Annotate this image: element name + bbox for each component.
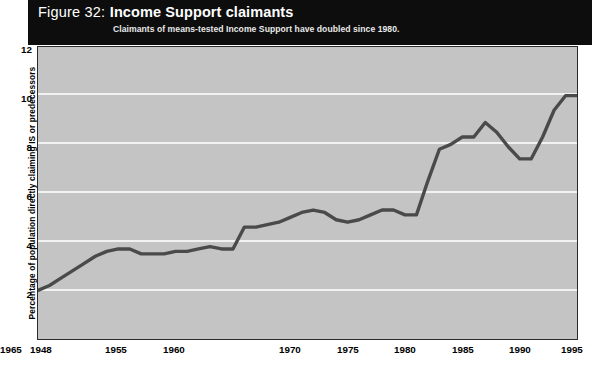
x-tick-1955: 1955 — [105, 344, 127, 355]
y-tick-6: 6 — [8, 192, 32, 202]
x-tick-1980: 1980 — [394, 344, 416, 355]
x-tick-1948: 1948 — [30, 344, 52, 355]
x-tick-1975: 1975 — [337, 344, 359, 355]
y-tick-8: 8 — [8, 143, 32, 153]
x-tick-1985: 1985 — [452, 344, 474, 355]
y-tick-2: 2 — [8, 290, 32, 300]
y-tick-10: 10 — [8, 94, 32, 104]
x-tick-1960: 1960 — [163, 344, 185, 355]
x-tick-1995: 1995 — [561, 344, 583, 355]
y-tick-12: 12 — [8, 45, 32, 55]
x-tick-1990: 1990 — [509, 344, 531, 355]
y-tick-4: 4 — [8, 241, 32, 251]
figure-container: Figure 32: Income Support claimants Clai… — [0, 0, 592, 376]
x-tick-1965: 1965 — [0, 344, 22, 355]
x-tick-1970: 1970 — [279, 344, 301, 355]
y-tick-label-group: 12 10 8 6 4 2 — [0, 0, 592, 376]
